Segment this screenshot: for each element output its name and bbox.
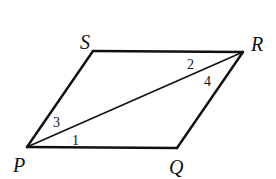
edge-qp	[27, 147, 177, 148]
angle-label-2: 2	[187, 57, 194, 72]
vertex-label-r: R	[250, 33, 263, 55]
angle-label-4: 4	[204, 74, 211, 89]
vertex-label-p: P	[12, 154, 25, 176]
angle-label-1: 1	[72, 133, 79, 148]
angle-label-3: 3	[53, 115, 60, 130]
vertex-label-q: Q	[169, 156, 184, 178]
parallelogram-diagram: SRPQ 1234	[0, 0, 276, 179]
edge-sr	[93, 51, 243, 52]
vertex-label-s: S	[80, 31, 90, 53]
